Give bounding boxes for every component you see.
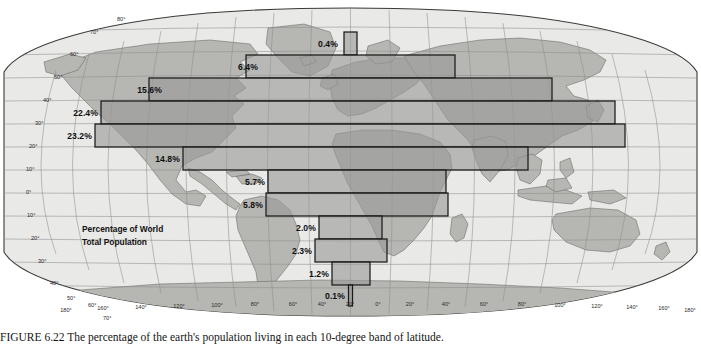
lat-tick-30n: 30°: [35, 120, 43, 126]
lat-tick-0: 0°: [26, 189, 31, 195]
band-15.6: [149, 78, 552, 101]
lon-tick-140e: 140°: [626, 304, 638, 310]
lon-tick-180w: 180°: [60, 307, 72, 313]
figure-caption-text: FIGURE 6.22 The percentage of the earth'…: [0, 331, 701, 344]
band-label-23.2: 23.2%: [67, 131, 92, 141]
lat-tick-70s: 70°: [103, 315, 111, 320]
lat-tick-10s: 10°: [27, 212, 35, 218]
lon-tick-20e: 20°: [406, 301, 414, 307]
lat-tick-40n: 40°: [43, 97, 51, 103]
band-label-2.3: 2.3%: [292, 246, 312, 256]
band-23.2: [95, 124, 625, 147]
legend-line-1: Percentage of World: [82, 224, 163, 234]
lat-tick-60n: 60°: [70, 51, 78, 57]
band-label-5.7: 5.7%: [245, 177, 265, 187]
lon-tick-80e: 80°: [518, 301, 526, 307]
lat-tick-50s: 50°: [67, 295, 75, 301]
lon-tick-60e: 60°: [480, 301, 488, 307]
lon-tick-140w: 140°: [135, 304, 147, 310]
lat-tick-50n: 50°: [54, 74, 62, 80]
band-label-2.0: 2.0%: [296, 223, 316, 233]
lon-tick-160w: 160°: [97, 305, 109, 311]
lat-tick-20n: 20°: [29, 143, 37, 149]
lat-tick-20s: 20°: [31, 235, 39, 241]
band-2.3: [315, 239, 387, 262]
lat-tick-70n: 70°: [90, 29, 98, 35]
band-label-22.4: 22.4%: [73, 108, 98, 118]
figure-caption: FIGURE 6.22 The percentage of the earth'…: [0, 331, 701, 346]
lat-tick-40s: 40°: [50, 280, 58, 286]
lon-tick-100w: 100°: [211, 302, 223, 308]
band-1.2: [332, 262, 370, 285]
lat-tick-60s: 60°: [88, 302, 96, 308]
lon-tick-80w: 80°: [251, 301, 259, 307]
lon-tick-20w: 20°: [346, 301, 354, 307]
lon-tick-40w: 40°: [318, 301, 326, 307]
lat-tick-80n: 80°: [117, 16, 125, 22]
band-label-0.1: 0.1%: [325, 291, 345, 301]
band-5.8: [266, 193, 448, 216]
lon-tick-120e: 120°: [591, 303, 603, 309]
band-0.4: [344, 32, 357, 55]
band-label-15.6: 15.6%: [137, 85, 162, 95]
legend-line-2: Total Population: [82, 237, 147, 247]
band-label-1.2: 1.2%: [309, 269, 329, 279]
lat-tick-30s: 30°: [38, 258, 46, 264]
world-map-chart: 0.4% 6.4% 15.6% 22.4% 23.2% 14.8% 5.7% 5…: [0, 0, 701, 320]
lat-tick-10n: 10°: [26, 166, 34, 172]
band-label-14.8: 14.8%: [155, 154, 180, 164]
band-5.7: [268, 170, 446, 193]
band-2.0: [319, 216, 382, 239]
band-6.4: [246, 55, 455, 78]
lon-tick-120w: 120°: [173, 303, 185, 309]
lon-tick-40e: 40°: [442, 301, 450, 307]
band-22.4: [101, 101, 615, 124]
band-label-6.4: 6.4%: [238, 62, 258, 72]
band-label-5.8: 5.8%: [243, 200, 263, 210]
lon-tick-60w: 60°: [289, 301, 297, 307]
lon-tick-0: 0°: [375, 301, 380, 307]
lon-tick-180e: 180°: [684, 307, 696, 313]
band-14.8: [183, 147, 528, 170]
lon-tick-160e: 160°: [658, 305, 670, 311]
figure-container: 0.4% 6.4% 15.6% 22.4% 23.2% 14.8% 5.7% 5…: [0, 0, 701, 346]
lon-tick-100e: 100°: [554, 302, 566, 308]
band-label-0.4: 0.4%: [318, 39, 338, 49]
